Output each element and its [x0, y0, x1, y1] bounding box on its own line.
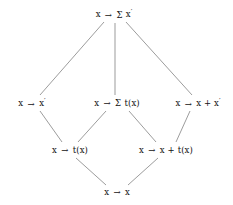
lattice-node-mid-center: x → Σ t(x) — [92, 98, 141, 109]
lattice-edge — [128, 158, 158, 185]
lattice-edge — [76, 158, 106, 185]
lattice-edge — [78, 111, 106, 142]
lattice-edge — [126, 22, 192, 95]
lattice-node-low-right: x → x + t(x) — [137, 145, 195, 156]
lattice-node-mid-left: x → x′ — [16, 97, 47, 110]
lattice-diagram: x → Σ x′x → x′x → Σ t(x)x → x + x′x → t(… — [0, 0, 233, 205]
lattice-edge — [176, 111, 190, 142]
lattice-edge — [40, 22, 104, 95]
lattice-node-low-left: x → t(x) — [50, 145, 90, 156]
lattice-edge — [40, 111, 62, 142]
lattice-node-top: x → Σ x′ — [94, 8, 135, 21]
lattice-node-mid-right: x → x + x′ — [173, 97, 222, 110]
lattice-node-bottom: x → x — [102, 187, 132, 198]
lattice-edge — [129, 111, 156, 142]
